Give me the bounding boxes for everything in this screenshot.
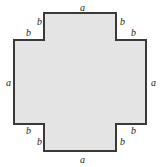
label-b-top-right-lower: b [131, 28, 136, 38]
cross-polygon-shape [14, 13, 146, 151]
label-b-bottom-left-lower: b [37, 137, 42, 147]
cross-polygon-svg [0, 0, 161, 167]
figure-container: aaaabbbbbbbb [0, 0, 161, 167]
label-b-bottom-right-lower: b [120, 137, 125, 147]
label-a-left: a [6, 78, 11, 88]
label-a-top: a [80, 3, 85, 13]
label-b-bottom-right-upper: b [131, 126, 136, 136]
label-b-top-left-upper: b [37, 17, 42, 27]
label-a-right: a [151, 78, 156, 88]
label-a-bottom: a [80, 155, 85, 165]
label-b-top-right-upper: b [120, 17, 125, 27]
label-b-bottom-left-upper: b [26, 126, 31, 136]
label-b-top-left-lower: b [26, 28, 31, 38]
